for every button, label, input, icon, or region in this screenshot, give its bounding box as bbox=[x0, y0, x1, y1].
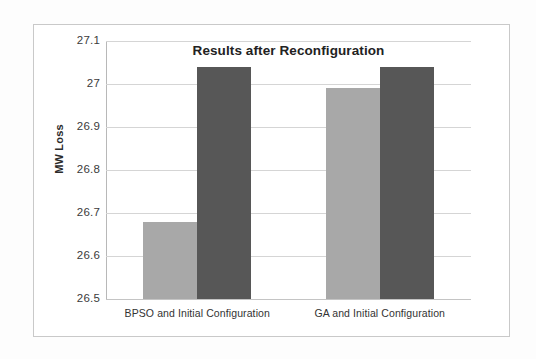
x-tick-label: GA and Initial Configuration bbox=[289, 307, 472, 319]
y-axis-tick-labels: 27.12726.926.826.726.626.5 bbox=[42, 41, 100, 299]
figure-page: Results after Reconfiguration MW Loss 27… bbox=[0, 0, 536, 359]
y-tick-label: 26.8 bbox=[56, 164, 100, 175]
gridline bbox=[106, 41, 471, 42]
bar-1-2 bbox=[197, 67, 251, 299]
y-tick-label: 27 bbox=[56, 78, 100, 89]
gridline bbox=[106, 299, 471, 300]
bar-2-1 bbox=[326, 88, 380, 299]
x-tick-label: BPSO and Initial Configuration bbox=[106, 307, 289, 319]
y-tick-label: 26.7 bbox=[56, 207, 100, 218]
x-axis-tick-labels: BPSO and Initial ConfigurationGA and Ini… bbox=[106, 307, 471, 331]
y-tick-label: 26.9 bbox=[56, 121, 100, 132]
bar-chart: Results after Reconfiguration MW Loss 27… bbox=[34, 25, 509, 336]
plot-area bbox=[106, 41, 471, 299]
bar-1-1 bbox=[143, 222, 197, 299]
y-tick-label: 27.1 bbox=[56, 35, 100, 46]
y-tick-label: 26.5 bbox=[56, 293, 100, 304]
bar-2-2 bbox=[380, 67, 434, 299]
y-tick-label: 26.6 bbox=[56, 250, 100, 261]
figure-frame: Results after Reconfiguration MW Loss 27… bbox=[33, 24, 510, 337]
